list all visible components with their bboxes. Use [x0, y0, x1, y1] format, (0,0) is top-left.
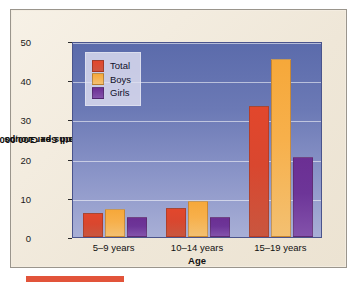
bar-total-group-2: [166, 208, 186, 237]
legend-label-total: Total: [110, 60, 130, 71]
y-axis-title: Deaths per 100,000 Within Age and Sex Gr…: [24, 42, 54, 238]
y-tick-mark-0: [68, 238, 72, 239]
x-tick-label-2: 10–14 years: [171, 242, 223, 253]
legend-swatch-girls-icon: [92, 87, 104, 99]
x-axis-title: Age: [72, 255, 322, 266]
plot-wrapper: Deaths per 100,000 Within Age and Sex Gr…: [10, 9, 347, 268]
legend-item-girls: Girls: [92, 87, 131, 99]
bar-boys-group-2: [188, 201, 208, 237]
plot-area: Total Boys Girls: [72, 42, 322, 238]
chart-legend: Total Boys Girls: [85, 52, 141, 106]
bar-boys-group-1: [105, 209, 125, 237]
x-tick-label-3: 15–19 years: [254, 242, 306, 253]
y-tick-label-30: 30: [0, 115, 31, 126]
y-tick-label-40: 40: [0, 76, 31, 87]
legend-label-girls: Girls: [110, 87, 130, 98]
legend-label-boys: Boys: [110, 74, 131, 85]
legend-swatch-total-icon: [92, 60, 104, 72]
figure-container: Deaths per 100,000 Within Age and Sex Gr…: [0, 0, 357, 289]
gridline-50: [73, 43, 321, 44]
legend-swatch-boys-icon: [92, 73, 104, 85]
y-tick-label-50: 50: [0, 37, 31, 48]
y-tick-label-0: 0: [0, 233, 31, 244]
bar-boys-group-3: [271, 59, 291, 237]
y-tick-label-10: 10: [0, 193, 31, 204]
bar-girls-group-3: [293, 157, 313, 237]
legend-item-boys: Boys: [92, 73, 131, 85]
legend-item-total: Total: [92, 60, 131, 72]
bar-total-group-1: [83, 213, 103, 237]
bar-total-group-3: [249, 106, 269, 237]
bar-girls-group-2: [210, 217, 230, 237]
red-marker-bar: [26, 276, 124, 282]
y-tick-label-20: 20: [0, 154, 31, 165]
x-tick-label-1: 5–9 years: [93, 242, 135, 253]
bar-girls-group-1: [127, 217, 147, 237]
